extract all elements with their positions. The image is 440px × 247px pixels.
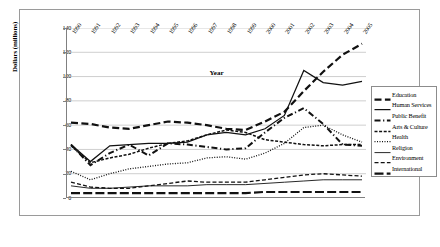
y-axis-title: Dollars (millions) — [11, 22, 19, 72]
legend-label: Education — [392, 91, 416, 98]
legend-label: Health — [392, 133, 408, 140]
chart-root: Dollars (millions) 020406080100120140 19… — [0, 0, 440, 247]
y-tick-mark — [63, 198, 66, 199]
legend-item[interactable]: Human Services — [374, 100, 435, 111]
legend-key-icon — [374, 164, 391, 173]
series-line — [71, 130, 362, 163]
legend: EducationHuman ServicesPublic BenefitArt… — [371, 86, 437, 177]
legend-key-icon — [374, 100, 391, 109]
legend-label: Public Benefit — [392, 112, 426, 119]
legend-label: Human Services — [392, 101, 431, 108]
legend-label: Religion — [392, 144, 413, 151]
legend-label: Arts & Culture — [392, 123, 428, 130]
legend-key-icon — [374, 122, 391, 131]
chart-frame: Dollars (millions) 020406080100120140 19… — [19, 9, 420, 216]
legend-label: Environment — [392, 154, 423, 161]
legend-key-icon — [374, 132, 391, 141]
x-axis-title: Year — [67, 69, 366, 77]
plot-area: 1990199119921993199419951996199719981999… — [66, 28, 365, 198]
x-tick-label: 2005 — [361, 22, 373, 35]
series-line — [71, 44, 362, 130]
legend-key-icon — [374, 143, 391, 152]
legend-item[interactable]: Religion — [374, 142, 435, 153]
plot-lines — [67, 28, 366, 198]
legend-item[interactable]: Arts & Culture — [374, 121, 435, 132]
legend-label: International — [392, 165, 422, 172]
legend-key-icon — [374, 90, 391, 99]
legend-key-icon — [374, 111, 391, 120]
legend-key-icon — [374, 153, 391, 162]
series-line — [71, 174, 362, 189]
legend-item[interactable]: Education — [374, 89, 435, 100]
legend-item[interactable]: Health — [374, 131, 435, 142]
series-line — [71, 180, 362, 189]
legend-item[interactable]: Environment — [374, 153, 435, 164]
legend-item[interactable]: Public Benefit — [374, 110, 435, 121]
series-line — [71, 192, 362, 193]
legend-item[interactable]: International — [374, 163, 435, 174]
